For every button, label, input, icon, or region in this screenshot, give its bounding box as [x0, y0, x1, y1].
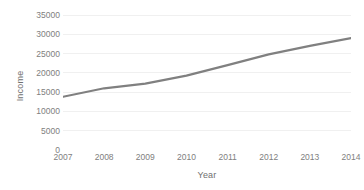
x-tick-label: 2013 — [300, 153, 319, 162]
y-tick-label: 30000 — [36, 30, 60, 39]
gridlines — [63, 15, 351, 150]
x-tick-label: 2008 — [95, 153, 114, 162]
x-tick-label: 2012 — [259, 153, 278, 162]
x-axis-title: Year — [63, 170, 351, 180]
y-tick-label: 35000 — [36, 11, 60, 20]
plot-svg — [63, 15, 351, 150]
data-series-income — [63, 38, 351, 97]
x-axis-tick-labels: 20072008200920102011201220132014 — [63, 153, 351, 167]
x-tick-label: 2014 — [342, 153, 361, 162]
x-tick-label: 2010 — [177, 153, 196, 162]
plot-area — [63, 15, 351, 150]
y-axis-tick-labels: 05000100001500020000250003000035000 — [24, 10, 60, 155]
y-tick-label: 15000 — [36, 88, 60, 97]
y-tick-label: 10000 — [36, 107, 60, 116]
x-tick-label: 2011 — [218, 153, 236, 162]
x-tick-label: 2007 — [54, 153, 73, 162]
y-tick-label: 20000 — [36, 69, 60, 78]
y-tick-label: 25000 — [36, 49, 60, 58]
x-tick-label: 2009 — [136, 153, 155, 162]
income-line — [63, 38, 351, 97]
line-chart: Income 050001000015000200002500030000350… — [0, 0, 364, 190]
y-tick-label: 5000 — [41, 126, 60, 135]
